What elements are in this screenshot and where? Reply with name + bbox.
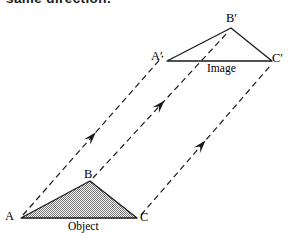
vertex-label-b-prime: B′ [226,12,237,25]
vertex-label-a: A [5,210,14,223]
vertex-label-a-prime: A′ [151,50,163,63]
vertex-label-b: B [84,168,92,181]
image-triangle-group [167,28,272,61]
translation-vectors-group [23,32,270,215]
vertex-label-c: C [140,211,148,224]
translation-figure: same direction. A B C A′ B′ C′ Object Im… [0,0,289,233]
object-label: Object [68,221,99,233]
vertex-label-c-prime: C′ [272,52,283,65]
object-triangle [21,181,137,218]
image-triangle [167,28,272,61]
image-label: Image [207,63,236,75]
translation-vector-c [141,66,270,215]
object-triangle-group [21,181,137,218]
figure-canvas [0,0,289,233]
